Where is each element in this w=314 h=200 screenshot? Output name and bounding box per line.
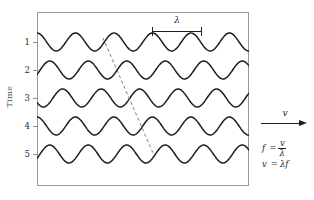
velocity-arrow-icon: [261, 120, 308, 128]
wavelength-bar: [152, 31, 202, 32]
arrow-head: [299, 120, 307, 126]
y-tick-mark-1: [33, 42, 37, 43]
y-tick-mark-5: [33, 154, 37, 155]
crest-track-dashed-line: [103, 38, 153, 153]
formula-block: f = v λ v = λf: [262, 140, 314, 172]
wave-path-group: [37, 33, 249, 163]
wavelength-label: λ: [152, 15, 202, 25]
wave-trace-5: [37, 145, 249, 163]
y-axis-title: Time: [5, 75, 14, 119]
formula-frequency-numerator: v: [280, 139, 285, 148]
y-tick-mark-2: [33, 70, 37, 71]
y-tick-label-5: 5: [16, 149, 30, 159]
formula-velocity-rhs: λf: [280, 159, 289, 169]
formula-velocity-lhs: v: [262, 159, 269, 169]
formula-velocity-equals: =: [269, 159, 280, 169]
wave-trace-3: [37, 89, 249, 107]
formula-velocity: v = λf: [262, 156, 314, 172]
formula-frequency-denominator: λ: [280, 149, 285, 158]
formula-frequency: f = v λ: [262, 140, 314, 156]
formula-frequency-equals: =: [267, 143, 278, 153]
wave-trace-1: [37, 33, 249, 51]
wavelength-cap-left: [152, 27, 153, 36]
y-tick-mark-3: [33, 98, 37, 99]
wavelength-measure: λ: [152, 16, 202, 38]
y-tick-label-2: 2: [16, 65, 30, 75]
y-tick-label-3: 3: [16, 93, 30, 103]
velocity-annotation: v: [261, 108, 311, 128]
y-tick-label-4: 4: [16, 121, 30, 131]
wave-diagram-figure: Time 1 2 3 4 5 λ v f = v λ: [0, 0, 314, 200]
wave-traces: [37, 12, 249, 186]
y-tick-mark-4: [33, 126, 37, 127]
wave-trace-4: [37, 117, 249, 135]
y-tick-label-1: 1: [16, 37, 30, 47]
velocity-label: v: [261, 108, 309, 118]
formula-frequency-fraction: v λ: [278, 139, 286, 158]
arrow-shaft: [261, 123, 301, 124]
wavelength-cap-right: [201, 27, 202, 36]
wave-trace-2: [37, 61, 249, 79]
